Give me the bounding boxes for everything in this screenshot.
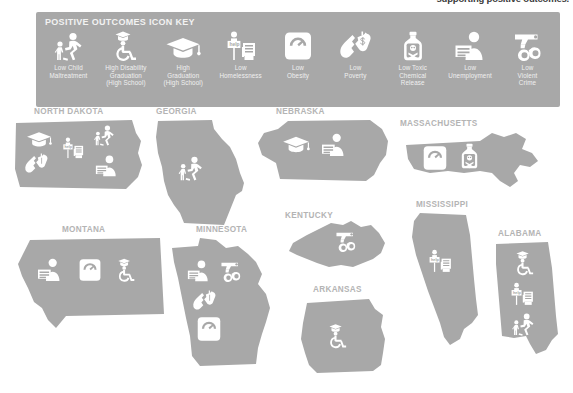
legend-title: POSITIVE OUTCOMES ICON KEY — [45, 17, 195, 27]
state-shape-montana — [8, 236, 168, 334]
homeless-help-sign-icon: help — [223, 31, 259, 61]
state-label-georgia: GEORGIA — [156, 107, 197, 116]
state-mississippi[interactable]: MISSISSIPPI help — [400, 200, 500, 350]
headline-text: supporting positive outcomes. — [437, 0, 570, 4]
legend-label: Low Poverty — [344, 64, 366, 79]
legend-label: Low Violent Crime — [518, 64, 538, 87]
state-label-montana: MONTANA — [62, 225, 105, 234]
state-label-nebraska: NEBRASKA — [276, 107, 325, 116]
legend-item-high-disability-graduation: High Disability Graduation (High School) — [97, 31, 154, 87]
state-shape-massachusetts — [400, 131, 540, 193]
state-shape-north-dakota — [14, 119, 144, 191]
legend-label: Low Obesity — [287, 64, 309, 79]
legend-item-low-homelessness: help Low Homelessness — [212, 31, 269, 79]
state-label-alabama: ALABAMA — [498, 229, 542, 238]
positive-outcomes-icon-key-panel: POSITIVE OUTCOMES ICON KEY Low Child Mal… — [36, 12, 560, 107]
legend-label: Low Unemployment — [448, 64, 492, 79]
state-shape-arkansas — [295, 297, 405, 375]
legend-item-high-graduation: High Graduation (High School) — [155, 31, 212, 87]
legend-label: High Graduation (High School) — [164, 64, 203, 87]
state-shape-minnesota — [170, 236, 280, 376]
state-kentucky[interactable]: KENTUCKY — [285, 211, 395, 273]
svg-text:help: help — [229, 41, 239, 47]
wheelchair-graduate-icon — [110, 31, 142, 61]
state-minnesota[interactable]: MINNESOTA — [170, 225, 280, 377]
legend-item-low-violent-crime: Low Violent Crime — [499, 31, 556, 87]
legend-item-low-child-maltreatment: Low Child Maltreatment — [40, 31, 97, 79]
state-label-kentucky: KENTUCKY — [285, 211, 333, 220]
state-shape-nebraska — [258, 119, 392, 185]
legend-label: Low Homelessness — [219, 64, 262, 79]
torn-dollar-icon — [339, 31, 371, 61]
state-label-arkansas: ARKANSAS — [313, 285, 362, 294]
state-massachusetts[interactable]: MASSACHUSETTS — [400, 119, 540, 194]
legend-item-low-obesity: Low Obesity — [270, 31, 327, 79]
legend-label: Low Child Maltreatment — [50, 64, 88, 79]
state-alabama[interactable]: ALABAMA help — [490, 229, 570, 357]
jobless-person-icon — [453, 31, 487, 61]
bathroom-scale-icon — [283, 31, 313, 61]
state-shape-alabama — [490, 240, 570, 356]
graduation-cap-icon — [165, 31, 201, 61]
legend-label: Low Toxic Chemical Release — [399, 64, 427, 87]
gun-handcuffs-icon — [511, 31, 545, 61]
state-arkansas[interactable]: ARKANSAS — [295, 285, 405, 375]
state-shape-georgia — [150, 117, 250, 227]
state-georgia[interactable]: GEORGIA — [150, 107, 250, 227]
legend-item-low-toxic-chemical-release: Low Toxic Chemical Release — [384, 31, 441, 87]
legend-items-row: Low Child Maltreatment High Disability G… — [40, 31, 556, 105]
state-label-north-dakota: NORTH DAKOTA — [34, 107, 103, 116]
legend-item-low-unemployment: Low Unemployment — [442, 31, 499, 79]
state-shape-mississippi — [400, 211, 500, 349]
toxic-bottle-icon — [400, 31, 426, 61]
state-north-dakota[interactable]: NORTH DAKOTA help — [14, 107, 144, 192]
state-shape-kentucky — [285, 221, 395, 273]
state-montana[interactable]: MONTANA — [8, 225, 168, 335]
state-maps-area: NORTH DAKOTA help GEORGIA NEBRASKA — [0, 107, 573, 393]
state-nebraska[interactable]: NEBRASKA — [258, 107, 392, 187]
state-label-mississippi: MISSISSIPPI — [416, 200, 468, 209]
legend-item-low-poverty: Low Poverty — [327, 31, 384, 79]
legend-label: High Disability Graduation (High School) — [105, 64, 146, 87]
child-running-icon — [52, 31, 86, 61]
state-label-minnesota: MINNESOTA — [196, 225, 247, 234]
top-headline-strip: supporting positive outcomes. — [0, 0, 573, 11]
state-label-massachusetts: MASSACHUSETTS — [400, 119, 478, 128]
